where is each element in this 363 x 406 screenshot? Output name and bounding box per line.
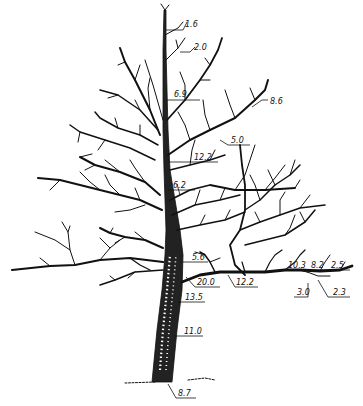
diameter-labels: 1.6 2.0 6.9 8.6 5.0 12.2 6.2 5.6 20.0 12…	[173, 20, 346, 398]
label-10: 12.2	[236, 278, 254, 287]
label-8: 5.6	[192, 253, 205, 262]
label-7: 6.2	[173, 181, 186, 190]
label-15: 2.5	[331, 261, 344, 270]
label-18: 8.7	[178, 389, 192, 398]
label-4: 8.6	[270, 97, 283, 106]
label-16: 3.0	[297, 288, 310, 297]
label-5: 5.0	[231, 136, 244, 145]
tree-diagram: 1.6 2.0 6.9 8.6 5.0 12.2 6.2 5.6 20.0 12…	[0, 0, 363, 406]
label-14: 8.2	[311, 261, 324, 270]
label-9: 20.0	[197, 278, 215, 287]
label-17: 2.3	[333, 288, 346, 297]
label-2: 2.0	[194, 43, 207, 52]
label-11: 13.5	[185, 293, 203, 302]
branches	[12, 4, 352, 285]
label-6: 12.2	[194, 153, 212, 162]
leader-lines	[166, 22, 350, 398]
label-13: 10.3	[288, 261, 306, 270]
label-3: 6.9	[174, 90, 187, 99]
label-12: 11.0	[184, 327, 202, 336]
label-1: 1.6	[185, 20, 198, 29]
